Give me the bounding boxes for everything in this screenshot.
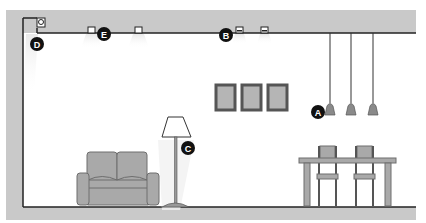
- picture-frames: [216, 85, 287, 110]
- room-drawing: D E B C A: [0, 0, 426, 223]
- label-d: D: [34, 40, 41, 50]
- pendant-lights-a: [325, 33, 378, 115]
- label-a: A: [315, 108, 322, 118]
- label-b: B: [223, 31, 230, 41]
- sofa: [77, 152, 159, 205]
- spotlights-b: [232, 27, 272, 44]
- floor-lamp-c: [158, 117, 194, 210]
- dining-set: [299, 146, 396, 206]
- cove-light-d: [24, 18, 45, 95]
- room-diagram: D E B C A: [0, 0, 426, 223]
- label-c: C: [185, 144, 192, 154]
- downlights-e: [81, 27, 149, 48]
- label-e: E: [101, 30, 107, 40]
